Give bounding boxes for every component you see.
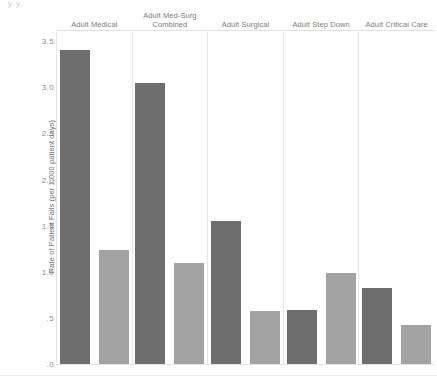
panel-header-label: Adult Medical: [57, 2, 132, 31]
panel-header-label: Adult Critical Care: [359, 2, 434, 31]
bar[interactable]: [362, 288, 392, 364]
panel-header-rule: [284, 30, 359, 31]
bar[interactable]: [60, 50, 90, 364]
chart-panel: Adult Step Down: [283, 32, 359, 364]
bar-group: [57, 32, 132, 364]
bar[interactable]: [401, 325, 431, 364]
y-axis-title: Rate of Patient Falls (per 1,000 patient…: [47, 82, 56, 312]
y-axis-tick-label: 3.5: [28, 37, 54, 46]
y-axis-tick-label: 1.5: [28, 221, 54, 230]
plot-area: Adult MedicalAdult Med-Surg CombinedAdul…: [56, 32, 434, 364]
panel-header-rule: [208, 30, 283, 31]
bar-group: [359, 32, 434, 364]
chart-panel: Adult Med-Surg Combined: [132, 32, 208, 364]
chart-container: y y, Rate of Patient Falls (per 1,000 pa…: [0, 0, 437, 376]
bar[interactable]: [211, 221, 241, 364]
y-axis: Rate of Patient Falls (per 1,000 patient…: [14, 0, 54, 376]
y-axis-tick-label: 1.0: [28, 267, 54, 276]
panel-header-rule: [133, 30, 208, 31]
bar[interactable]: [174, 263, 204, 364]
panel-header-rule: [57, 30, 132, 31]
y-axis-tick-label: .5: [28, 313, 54, 322]
chart-panel: Adult Medical: [56, 32, 132, 364]
bar[interactable]: [287, 310, 317, 364]
panel-header-label: Adult Med-Surg Combined: [133, 2, 208, 31]
bar[interactable]: [250, 311, 280, 364]
y-axis-tick-label: .0: [28, 360, 54, 369]
y-axis-tick-label: 2.0: [28, 175, 54, 184]
panel-header-label: Adult Step Down: [284, 2, 359, 31]
panel-header-label: Adult Surgical: [208, 2, 283, 31]
bar-group: [133, 32, 208, 364]
y-axis-tick-label: 3.0: [28, 83, 54, 92]
chart-panel: Adult Critical Care: [358, 32, 434, 364]
axis-baseline: [56, 364, 434, 365]
bar[interactable]: [326, 273, 356, 364]
bar[interactable]: [135, 83, 165, 364]
chart-panel: Adult Surgical: [207, 32, 283, 364]
bar-group: [208, 32, 283, 364]
bar-group: [284, 32, 359, 364]
bar[interactable]: [99, 250, 129, 364]
y-axis-tick-label: 2.5: [28, 129, 54, 138]
panel-header-rule: [359, 30, 434, 31]
